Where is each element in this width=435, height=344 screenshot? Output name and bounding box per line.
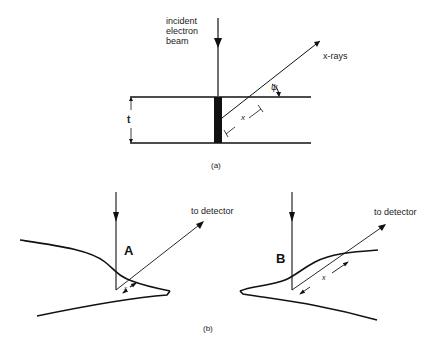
path-arrow-b-lower [300, 287, 310, 294]
angle-label: ψ [271, 82, 278, 92]
path-length-label-b-a: x [124, 283, 127, 293]
path-arrow-b-upper [332, 262, 348, 273]
detector-arrowhead-a-icon [196, 221, 204, 229]
case-a-label: A [124, 243, 133, 258]
diagram-canvas [0, 0, 435, 344]
path-length-dimension-upper [249, 109, 261, 118]
specimen-lower-edge-b [240, 291, 377, 320]
excitation-column [214, 97, 222, 143]
panel-b-case-b [240, 192, 386, 320]
detector-label-b: to detector [374, 207, 417, 217]
detector-label-a: to detector [191, 206, 234, 216]
beam-arrowhead-a-icon [113, 212, 119, 222]
caption-b: (b) [203, 324, 213, 334]
case-b-label: B [276, 251, 285, 266]
path-length-label-a: x [241, 113, 245, 123]
incident-beam-label: incident electron beam [166, 16, 198, 46]
beam-label-line-2: electron [166, 26, 198, 36]
thickness-label: t [127, 115, 130, 125]
path-tick-lower [224, 130, 228, 137]
path-length-dimension [226, 127, 235, 134]
path-length-label-b-b: x [322, 273, 326, 283]
caption-a: (a) [211, 161, 221, 171]
beam-label-line-1: incident [166, 16, 198, 26]
beam-arrowhead-icon [214, 38, 222, 48]
detector-arrowhead-b-icon [378, 224, 386, 231]
specimen-upper-edge-b [240, 250, 378, 291]
specimen-lower-edge-a [37, 291, 170, 316]
detector-path-b [292, 225, 385, 290]
beam-label-line-3: beam [166, 36, 198, 46]
beam-arrowhead-b-icon [289, 212, 295, 222]
xray-label: x-rays [323, 51, 348, 61]
panel-a [129, 18, 320, 143]
xray-arrowhead-icon [314, 41, 320, 47]
path-arrow-a-upper [130, 283, 136, 287]
xray-path [222, 41, 320, 118]
panel-b-case-a [20, 192, 204, 316]
